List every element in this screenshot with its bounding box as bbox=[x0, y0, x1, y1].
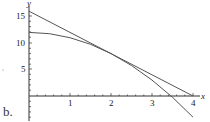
part-label: b. bbox=[3, 104, 13, 120]
x-tick-label: 4 bbox=[191, 98, 196, 108]
dot-mark bbox=[2, 69, 3, 70]
chart: 15 10 5 1 2 3 4 y x bbox=[0, 0, 210, 122]
y-axis-label: y bbox=[26, 0, 31, 8]
y-tick-label: 10 bbox=[16, 38, 26, 48]
x-tick-label: 2 bbox=[109, 98, 114, 108]
y-tick-label: 5 bbox=[21, 64, 26, 74]
y-tick-label: 15 bbox=[16, 11, 26, 21]
x-tick-label: 3 bbox=[150, 98, 155, 108]
x-axis-label: x bbox=[200, 91, 205, 101]
x-tick-label: 1 bbox=[68, 98, 73, 108]
